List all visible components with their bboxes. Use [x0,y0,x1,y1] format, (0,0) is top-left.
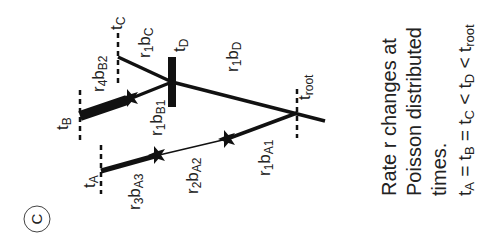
label-td: tD [170,38,191,52]
caption-equation: tA = tB = tC < tD < troot [454,24,477,196]
label-r1bC: r1bC [135,27,156,58]
caption-line-1: Rate r changes at [378,38,400,196]
label-r2bA2: r2bA2 [183,157,204,194]
rate-change-star-icon [218,130,235,148]
branch-a1 [227,113,297,139]
branch-b1 [132,82,172,98]
label-r1bB1: r1bB1 [147,99,168,136]
label-troot: troot [295,74,316,100]
branch-b2 [80,100,127,116]
branch-a3 [101,156,155,171]
label-tc: tC [107,16,128,30]
label-r3bA3: r3bA3 [125,173,146,210]
label-r1bD: r1bD [223,41,244,72]
branch-a2 [155,139,227,156]
label-ta: tA [80,175,101,188]
caption-line-2: Poisson distributed [403,27,425,196]
caption-line-3: times. [428,143,450,196]
label-r4bB2: r4bB2 [89,55,110,92]
label-tb: tB [53,117,74,130]
panel-label: C [28,213,45,224]
branch-c [118,57,172,82]
label-r1bA1: r1bA1 [255,139,276,176]
tree-diagram: C tC tD tB tA troot r4bB2 r1bB1 r1bC r1b… [0,0,492,250]
